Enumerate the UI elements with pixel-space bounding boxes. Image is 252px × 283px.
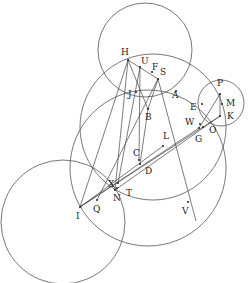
segment-IL [80,146,163,207]
label-X: X [108,179,115,189]
upper-circle [98,3,192,97]
point-P [219,93,221,95]
segment-HB [128,60,148,109]
point-S [157,78,159,80]
circles-group [1,3,244,283]
label-N: N [113,193,121,203]
point-W [199,123,201,125]
point-T [116,187,118,189]
point-G [198,127,200,129]
point-D [139,163,141,165]
label-L: L [163,131,169,141]
lower-left-circle [1,160,125,283]
point-O [202,126,204,128]
point-U [139,66,141,68]
point-X [117,182,119,184]
label-H: H [121,47,129,57]
label-J: J [127,89,132,99]
label-K: K [227,111,234,121]
point-H [127,59,129,61]
label-F: F [152,62,158,72]
segment-UC [139,67,140,160]
point-C [138,159,140,161]
point-M [221,103,223,105]
point-L [162,145,164,147]
label-O: O [209,125,216,135]
label-E: E [190,102,197,112]
label-W: W [185,117,195,127]
label-G: G [195,134,202,144]
geometric-diagram: HUFSJABPMEKWOGLCDXTNQIV [0,0,252,283]
label-U: U [141,56,149,66]
label-B: B [145,112,152,122]
point-Q [96,199,98,201]
point-B [147,108,149,110]
segment-SV2 [158,79,196,221]
point-I [79,206,81,208]
label-M: M [226,98,235,108]
label-I: I [76,211,80,221]
point-N [114,189,116,191]
point-V [187,201,189,203]
point-J [135,91,137,93]
label-Q: Q [93,204,100,214]
label-T: T [126,188,132,198]
label-D: D [145,166,152,176]
label-S: S [160,67,166,77]
segment-SB [148,79,158,109]
label-C: C [133,148,140,158]
point-K [219,115,221,117]
label-V: V [181,206,189,216]
label-A: A [171,90,179,100]
point-E [201,103,203,105]
label-P: P [217,78,223,88]
